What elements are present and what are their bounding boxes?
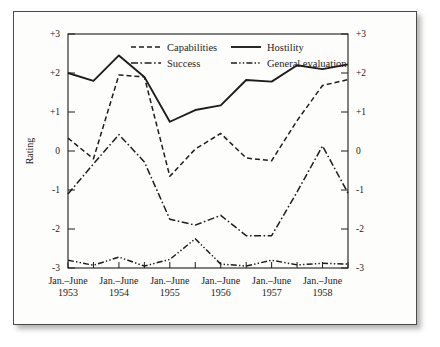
y-tick-label-left: -2 (52, 224, 60, 234)
plot-frame (68, 34, 348, 268)
series-line-success (68, 135, 348, 236)
x-tick-label-year: 1957 (262, 287, 282, 298)
x-tick-label-period: Jan.–June (252, 275, 292, 286)
y-tick-label-left: +1 (50, 107, 60, 117)
y-tick-label-right: 0 (356, 146, 361, 156)
legend-label-general-evaluation: General evaluation (267, 58, 347, 69)
series-line-capabilities (68, 75, 348, 176)
x-tick-label-period: Jan.–June (150, 275, 190, 286)
x-tick-label-year: 1953 (58, 287, 78, 298)
chart-legend: CapabilitiesHostilitySuccessGeneral eval… (131, 42, 347, 69)
y-tick-label-left: 0 (55, 146, 60, 156)
x-tick-label-period: Jan.–June (48, 275, 88, 286)
x-tick-label-year: 1955 (160, 287, 180, 298)
y-tick-label-right: -3 (356, 263, 364, 273)
data-series-group (68, 55, 348, 266)
x-tick-label-period: Jan.–June (99, 275, 139, 286)
y-axis-title-label: Rating (24, 138, 35, 165)
y-tick-label-right: -2 (356, 224, 364, 234)
line-chart: +3+3+2+2+1+100-1-1-2-2-3-3 Jan.–June1953… (13, 11, 417, 325)
legend-label-hostility: Hostility (267, 42, 305, 53)
plot-border (68, 34, 348, 268)
chart-figure: +3+3+2+2+1+100-1-1-2-2-3-3 Jan.–June1953… (13, 11, 417, 325)
series-line-general-evaluation (68, 239, 348, 266)
y-tick-label-right: +1 (356, 107, 366, 117)
x-tick-label-period: Jan.–June (303, 275, 343, 286)
y-tick-label-right: +2 (356, 68, 366, 78)
y-tick-label-left: -1 (52, 185, 60, 195)
x-tick-label-year: 1956 (211, 287, 231, 298)
legend-label-success: Success (167, 58, 200, 69)
legend-label-capabilities: Capabilities (167, 42, 217, 53)
x-tick-label-year: 1958 (313, 287, 333, 298)
x-tick-label-year: 1954 (109, 287, 129, 298)
y-tick-label-left: +3 (50, 29, 60, 39)
y-tick-label-right: -1 (356, 185, 364, 195)
x-axis-ticks: Jan.–June1953Jan.–June1954Jan.–June1955J… (48, 262, 348, 298)
y-tick-label-left: -3 (52, 263, 60, 273)
y-axis-title: Rating (24, 138, 35, 165)
x-tick-label-period: Jan.–June (201, 275, 241, 286)
y-tick-label-right: +3 (356, 29, 366, 39)
y-tick-label-left: +2 (50, 68, 60, 78)
figure-page: +3+3+2+2+1+100-1-1-2-2-3-3 Jan.–June1953… (0, 0, 440, 347)
